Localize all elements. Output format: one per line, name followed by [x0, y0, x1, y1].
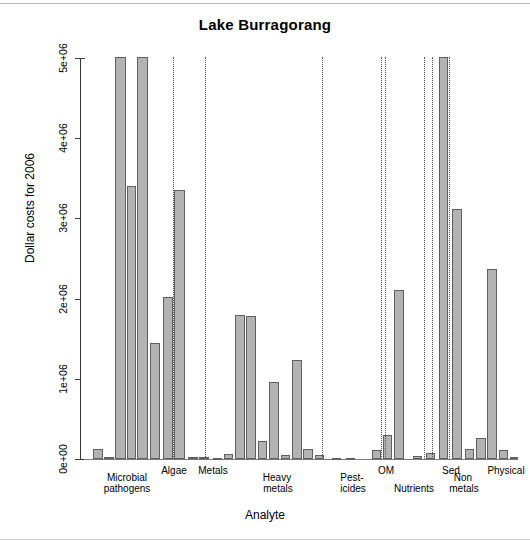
x-axis-group-label: metals	[444, 483, 484, 494]
x-axis-group-label: pathogens	[94, 483, 160, 494]
x-axis-group-label: Pest-	[336, 472, 368, 483]
x-axis-group-label: Microbial	[96, 472, 158, 483]
x-axis-group-label: Physical	[481, 465, 530, 476]
x-axis-group-label: Nutrients	[386, 483, 442, 494]
x-axis-labels-layer: MicrobialpathogensAlgaeMetalsHeavymetals…	[0, 0, 530, 541]
x-axis-group-label: Metals	[193, 465, 233, 476]
chart-page: Lake Burragorang 0e+001e+062e+063e+064e+…	[0, 0, 530, 541]
x-axis-group-label: metals	[258, 483, 298, 494]
x-axis-group-label: Non	[449, 472, 477, 483]
x-axis-group-label: Algae	[156, 465, 192, 476]
x-axis-group-label: icides	[335, 483, 371, 494]
x-axis-group-label: OM	[374, 465, 398, 476]
x-axis-group-label: Heavy	[258, 472, 296, 483]
